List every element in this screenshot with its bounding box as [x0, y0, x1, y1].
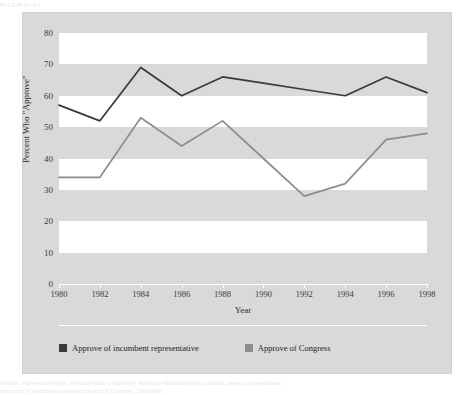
- x-tick-label: 1986: [162, 289, 202, 299]
- x-tick-label: 1996: [366, 289, 406, 299]
- y-tick-label: 60: [13, 91, 53, 101]
- legend-label-incumbent: Approve of incumbent representative: [72, 343, 199, 353]
- chart-legend: Approve of incumbent representative Appr…: [59, 343, 427, 353]
- y-tick-label: 30: [13, 185, 53, 195]
- x-tick-label: 1982: [80, 289, 120, 299]
- y-tick-label: 10: [13, 248, 53, 258]
- x-tick-mark: [141, 284, 142, 288]
- x-tick-label: 1998: [407, 289, 447, 299]
- y-axis-label: Percent Who "Approve": [21, 75, 31, 163]
- x-tick-mark: [386, 284, 387, 288]
- x-axis-line: [59, 284, 427, 285]
- legend-swatch-icon: [59, 344, 67, 352]
- series-lines: [59, 33, 427, 284]
- x-tick-mark: [182, 284, 183, 288]
- figure-panel: 80706050403020100 1980198219841986198819…: [22, 12, 452, 374]
- legend-item-congress: Approve of Congress: [245, 343, 331, 353]
- legend-label-congress: Approve of Congress: [258, 343, 331, 353]
- cropped-caption-line-1: Sources: Harvey and Wayne, Political Sci…: [0, 380, 474, 388]
- x-tick-label: 1990: [243, 289, 283, 299]
- legend-separator: [59, 325, 427, 326]
- plot-wrapper: 80706050403020100 1980198219841986198819…: [59, 33, 427, 296]
- y-tick-label: 80: [13, 28, 53, 38]
- x-tick-mark: [263, 284, 264, 288]
- series-line: [59, 118, 427, 196]
- x-tick-mark: [345, 284, 346, 288]
- legend-swatch-icon: [245, 344, 253, 352]
- x-tick-mark: [427, 284, 428, 288]
- cropped-header-text: pp g g pp g p y p: [0, 1, 474, 9]
- y-tick-label: 20: [13, 216, 53, 226]
- x-tick-label: 1992: [284, 289, 324, 299]
- y-tick-label: 40: [13, 154, 53, 164]
- y-tick-label: 0: [13, 279, 53, 289]
- y-tick-label: 50: [13, 122, 53, 132]
- x-axis-label: Year: [59, 305, 427, 315]
- x-tick-mark: [100, 284, 101, 288]
- x-tick-mark: [223, 284, 224, 288]
- plot-area: [59, 33, 427, 284]
- y-tick-label: 70: [13, 59, 53, 69]
- x-tick-mark: [304, 284, 305, 288]
- x-tick-label: 1984: [121, 289, 161, 299]
- x-tick-label: 1988: [203, 289, 243, 299]
- x-tick-label: 1980: [39, 289, 79, 299]
- legend-item-incumbent: Approve of incumbent representative: [59, 343, 199, 353]
- x-tick-label: 1994: [325, 289, 365, 299]
- cropped-caption-line-2: approving of incumbent representative an…: [0, 388, 474, 395]
- series-line: [59, 68, 427, 121]
- x-tick-mark: [59, 284, 60, 288]
